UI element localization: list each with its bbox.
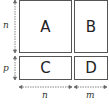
block-d-label: D	[85, 59, 97, 77]
block-b: B	[74, 0, 108, 53]
col-label-n: n	[42, 90, 48, 100]
block-b-label: B	[86, 18, 96, 36]
row-label-p: p	[3, 63, 9, 73]
block-c: C	[19, 56, 72, 80]
col-label-m: m	[86, 90, 95, 100]
col-n-arrow	[19, 86, 72, 89]
block-a: A	[19, 0, 72, 53]
block-d: D	[74, 56, 108, 80]
block-a-label: A	[40, 18, 50, 36]
row-label-n: n	[3, 20, 9, 30]
row-n-arrow	[14, 0, 17, 53]
col-m-arrow	[74, 86, 107, 89]
row-p-arrow	[14, 56, 17, 80]
block-c-label: C	[40, 59, 50, 77]
